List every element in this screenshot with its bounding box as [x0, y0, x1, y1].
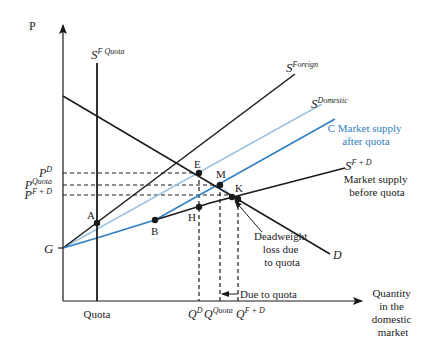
price-label-pfd: PF + D: [24, 187, 53, 202]
s-f-quota-label: SF Quota: [91, 47, 124, 62]
point-k-label: K: [235, 182, 243, 194]
point-m-label: M: [216, 168, 226, 180]
s-foreign-label: SForeign: [286, 60, 318, 75]
y-axis-label: P: [29, 19, 36, 33]
quota-axis-label: Quota: [84, 308, 111, 320]
point-a-label: A: [87, 209, 95, 221]
quantity-label-qquota: QQuota: [204, 306, 233, 321]
point-e-label: E: [194, 158, 201, 170]
point-h: [196, 204, 202, 210]
point-m: [217, 182, 223, 188]
demand-label: D: [332, 248, 342, 262]
s-f-plus-d-label: SF + D: [345, 158, 372, 173]
point-e: [196, 170, 202, 176]
s-domestic-label: SDomestic: [311, 96, 348, 111]
point-dwl: [229, 194, 235, 200]
point-b: [152, 217, 158, 223]
market-supply-before-quota-label: Market supply before quota: [344, 173, 411, 198]
quantity-label-qd: QD: [188, 306, 203, 321]
point-h-label: H: [188, 211, 196, 223]
s-f-plus-d-curve: [155, 168, 345, 220]
point-b-label: B: [151, 225, 158, 237]
x-axis-label: Quantity in the domestic market: [372, 287, 414, 338]
market-supply-after-quota-label: C Market supply after quota: [328, 122, 405, 147]
quantity-label-qfd: QF + D: [236, 306, 265, 321]
origin-label-g: G: [44, 241, 54, 256]
deadweight-loss-label: Deadweight loss due to quota: [254, 230, 310, 268]
quota-diagram: P SF Quota SForeign SDomestic C Market s…: [0, 0, 432, 345]
due-to-quota-label: Due to quota: [240, 288, 297, 300]
